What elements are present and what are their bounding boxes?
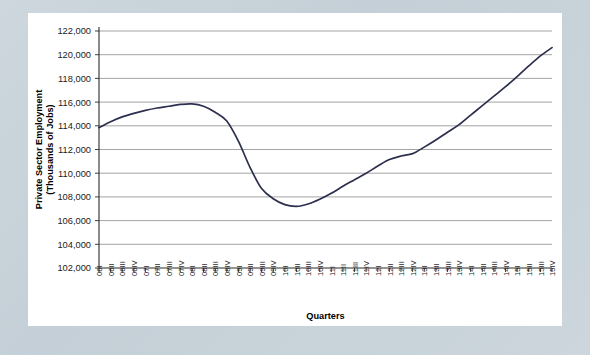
x-tick-label: 10II [293, 263, 302, 276]
x-tick-label: 06I [95, 265, 104, 276]
x-tick-label: 07I [142, 265, 151, 276]
y-tick-labels-group: 102,000104,000106,000108,000110,000112,0… [57, 26, 91, 273]
x-tick-label: 11II [339, 264, 348, 276]
x-tick-label: 14I [467, 265, 476, 276]
x-tick-label: 09II [246, 263, 255, 276]
x-tick-label: 14II [479, 263, 488, 276]
x-tick-label: 08II [200, 263, 209, 276]
line-chart: 102,000104,000106,000108,000110,000112,0… [28, 13, 562, 326]
y-tick-label: 118,000 [58, 74, 91, 84]
x-tick-label: 12II [386, 263, 395, 276]
y-tick-label: 116,000 [58, 98, 91, 108]
x-tick-label: 15III [537, 261, 546, 276]
y-tick-label: 122,000 [57, 26, 91, 36]
chart-plot-area: 102,000104,000106,000108,000110,000112,0… [28, 13, 562, 326]
x-tick-label: 15I [513, 265, 522, 276]
x-tick-label: 13I [420, 265, 429, 276]
y-tick-label: 102,000 [57, 263, 91, 273]
x-tick-label: 12III [397, 261, 406, 276]
y-tick-marks-group [95, 31, 99, 268]
data-series-line [99, 48, 552, 207]
x-tick-label: 11III [351, 262, 360, 276]
x-tick-label: 10I [281, 265, 290, 276]
x-tick-label: 13II [432, 263, 441, 276]
x-tick-label: 09III [258, 261, 267, 276]
x-tick-label: 15II [525, 263, 534, 276]
y-tick-label: 114,000 [58, 121, 91, 131]
y-tick-label: 112,000 [58, 145, 91, 155]
x-tick-label: 06II [107, 263, 116, 276]
y-tick-label: 120,000 [57, 50, 91, 60]
x-tick-label: 08I [188, 265, 197, 276]
x-tick-label: 06III [118, 261, 127, 276]
x-tick-label: 13III [444, 261, 453, 276]
x-axis-title: Quarters [306, 311, 344, 321]
y-tick-label: 104,000 [57, 240, 91, 250]
gridlines-group [99, 31, 552, 244]
x-tick-label: 14III [490, 261, 499, 276]
y-tick-label: 106,000 [57, 216, 91, 226]
y-axis-title-line-1: Private Sector Employment [34, 90, 44, 209]
chart-panel: 102,000104,000106,000108,000110,000112,0… [28, 13, 562, 326]
y-tick-label: 110,000 [58, 169, 91, 179]
x-tick-label: 09I [235, 265, 244, 276]
y-axis-title-line-2: (Thousands of Jobs) [45, 104, 55, 194]
x-tick-label: 08III [211, 261, 220, 276]
y-tick-label: 108,000 [57, 192, 91, 202]
x-tick-label: 07II [153, 263, 162, 276]
screenshot-root: 102,000104,000106,000108,000110,000112,0… [0, 0, 590, 355]
x-tick-label: 07III [165, 261, 174, 276]
x-tick-label: 12I [374, 265, 383, 276]
x-tick-label: 10III [304, 261, 313, 276]
